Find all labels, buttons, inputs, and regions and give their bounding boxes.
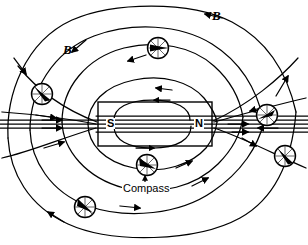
field-line-left-lower-diag (2, 128, 96, 158)
arrow-2-bottom (120, 206, 140, 208)
compass-right-lower (275, 146, 296, 167)
arrow-left-upper-diag (36, 115, 56, 118)
field-line-left-upper-diag (2, 112, 96, 124)
field-line-inner-bottom (114, 126, 191, 148)
compass-label: Compass (122, 182, 170, 194)
field-line-inner-top (114, 100, 190, 120)
south-pole-label: S (106, 118, 115, 129)
field-label-right: B (212, 8, 221, 24)
field-diagram-svg (0, 0, 308, 245)
arrow-outer-bottom (48, 212, 64, 222)
field-line-right-far-upper (213, 58, 298, 121)
arrow-4-bottom (176, 161, 192, 168)
field-line-outer-top (8, 6, 296, 138)
arrow-3-top (128, 55, 146, 61)
arrow-4-top (156, 88, 172, 90)
compass-top (148, 38, 169, 59)
compass-left-upper (32, 84, 53, 105)
compass-bottom-center (137, 155, 158, 176)
magnetic-field-figure: B B S N Compass (0, 0, 308, 245)
arrow-right-far-upper (276, 76, 288, 96)
field-label-left: B (63, 42, 72, 58)
north-pole-label: N (194, 118, 204, 129)
arrow-right-lower-diag (242, 138, 256, 146)
arrow-3-bottom (192, 178, 208, 186)
compass-right-upper (257, 105, 278, 126)
compass-bottom-left (75, 197, 96, 218)
field-line-left-far-upper (18, 66, 97, 122)
